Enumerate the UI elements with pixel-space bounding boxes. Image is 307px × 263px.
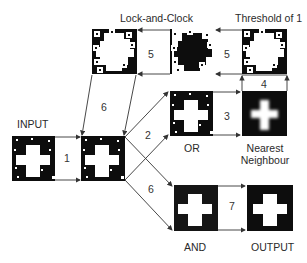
threshold-image — [242, 29, 287, 74]
and-image — [174, 185, 218, 231]
step-4-label: 4 — [261, 78, 267, 90]
input-label: INPUT — [17, 118, 49, 130]
step-5-left-label: 5 — [148, 48, 154, 60]
pipeline-diagram — [0, 0, 307, 263]
or-label: OR — [184, 142, 200, 154]
output-image — [247, 185, 293, 231]
step-6-bottom-label: 6 — [148, 183, 154, 195]
step-6-top-label: 6 — [101, 101, 107, 113]
threshold-label: Threshold of 1 — [235, 12, 302, 24]
step-7-label: 7 — [229, 200, 235, 212]
and-label: AND — [184, 241, 206, 253]
lock-middle-image — [170, 29, 215, 74]
nearest-neighbour-label-line1: Nearest — [240, 142, 290, 154]
nearest-neighbour-image — [242, 91, 287, 136]
step-2-label: 2 — [145, 129, 151, 141]
or-image — [170, 91, 213, 136]
step-5-right-label: 5 — [224, 48, 230, 60]
step-3-label: 3 — [224, 110, 230, 122]
output-label: OUTPUT — [251, 241, 294, 253]
nearest-neighbour-label-line2: Neighbour — [240, 154, 290, 166]
lock-left-image — [92, 29, 137, 74]
lock-and-clock-label: Lock-and-Clock — [120, 12, 193, 24]
stage1-image — [81, 136, 125, 181]
nearest-neighbour-label: Nearest Neighbour — [240, 142, 290, 166]
input-image — [12, 136, 55, 181]
step-1-label: 1 — [64, 152, 70, 164]
